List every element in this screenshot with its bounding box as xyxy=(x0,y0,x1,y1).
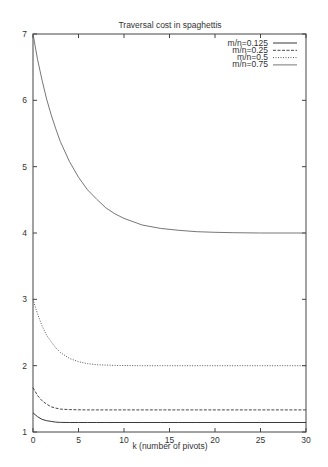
series-line xyxy=(33,413,306,423)
series-lines xyxy=(33,34,306,423)
series-line xyxy=(33,388,306,410)
x-tick-label: 25 xyxy=(256,435,266,445)
x-tick-label: 5 xyxy=(76,435,81,445)
y-tick-label: 6 xyxy=(22,95,27,105)
y-tick-label: 2 xyxy=(22,361,27,371)
x-tick-label: 30 xyxy=(301,435,311,445)
x-tick-label: 0 xyxy=(31,435,36,445)
x-tick-label: 20 xyxy=(210,435,220,445)
chart-title: Traversal cost in spaghettis xyxy=(118,20,221,30)
y-tick-label: 1 xyxy=(22,427,27,437)
y-tick-label: 5 xyxy=(22,162,27,172)
series-line xyxy=(33,299,306,365)
y-tick-label: 4 xyxy=(22,228,27,238)
axes: 0510152025301234567 xyxy=(22,29,311,445)
y-tick-label: 7 xyxy=(22,29,27,39)
x-tick-label: 10 xyxy=(119,435,129,445)
x-axis-label: k (number of pivots) xyxy=(132,441,207,451)
y-tick-label: 3 xyxy=(22,294,27,304)
legend: m/n=0.125m/n=0.25m/n=0.5m/n=0.75 xyxy=(228,38,297,70)
line-chart: Traversal cost in spaghettis 05101520253… xyxy=(0,0,328,467)
legend-label: m/n=0.75 xyxy=(232,59,268,69)
